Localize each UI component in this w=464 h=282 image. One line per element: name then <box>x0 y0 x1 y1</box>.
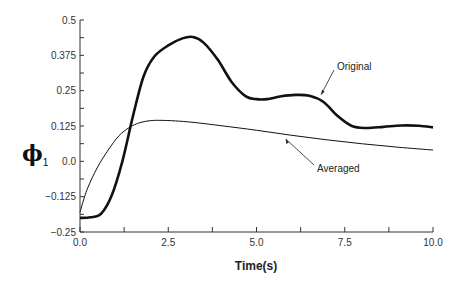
axes: −0.25−0.1250.00.1250.250.3750.50.02.55.0… <box>45 15 443 249</box>
y-axis-label: ϕ1 <box>22 140 48 168</box>
series-layer <box>80 37 433 218</box>
series-original-line <box>80 37 433 218</box>
y-tick-label: 0.25 <box>57 85 77 96</box>
series-averaged-line <box>80 120 433 212</box>
annotations: OriginalAveraged <box>286 61 372 174</box>
y-tick-label: −0.125 <box>45 191 76 202</box>
line-chart: −0.25−0.1250.00.1250.250.3750.50.02.55.0… <box>0 0 464 282</box>
x-tick-label: 5.0 <box>250 237 264 248</box>
y-tick-label: −0.25 <box>51 227 77 238</box>
x-axis-label: Time(s) <box>235 259 277 273</box>
y-axis-subscript: 1 <box>43 157 49 168</box>
arrowhead-icon <box>321 90 325 95</box>
x-tick-label: 7.5 <box>338 237 352 248</box>
y-tick-label: 0.125 <box>51 121 76 132</box>
x-tick-label: 2.5 <box>161 237 175 248</box>
annotation-original: Original <box>337 61 371 72</box>
y-tick-label: 0.375 <box>51 50 76 61</box>
annotation-averaged: Averaged <box>317 163 360 174</box>
y-tick-label: 0.0 <box>62 156 76 167</box>
x-tick-label: 10.0 <box>423 237 443 248</box>
y-axis-symbol: ϕ <box>22 140 43 166</box>
annotation-arrow-averaged <box>286 139 314 165</box>
y-tick-label: 0.5 <box>62 15 76 26</box>
x-tick-label: 0.0 <box>73 237 87 248</box>
